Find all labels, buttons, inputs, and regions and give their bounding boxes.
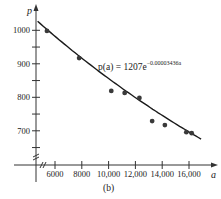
data-point [45,29,50,34]
y-tick-label: 1000 [13,25,30,35]
y-tick-label: 900 [17,59,30,69]
data-point [77,56,82,61]
data-point [109,89,114,94]
axes: 70080090010006000800010,00012,00014,0001… [13,4,218,182]
data-point [150,119,155,124]
data-point [184,130,189,135]
data-point [122,91,127,96]
y-tick-label: 700 [17,126,30,136]
x-tick-label: 12,000 [124,169,147,179]
fit-equation-exponent: −0.00003436a [147,60,182,66]
y-tick-label: 800 [17,92,30,102]
x-tick-label: 14,000 [151,169,174,179]
data-point [137,96,142,101]
data-point [162,123,167,128]
pressure-altitude-chart: 70080090010006000800010,00012,00014,0001… [0,0,221,199]
x-axis-arrow-icon [211,163,218,168]
x-tick-label: 10,000 [97,169,120,179]
fit-equation-main: p(a) = 1207e [98,62,147,73]
fit-equation: p(a) = 1207e−0.00003436a [98,60,182,73]
x-tick-label: 16,000 [177,169,200,179]
figure-caption: (b) [103,183,114,194]
data-point [189,131,194,136]
x-tick-label: 8000 [73,169,90,179]
y-axis-label: p [26,5,32,16]
fit-curve-line [38,21,202,139]
data-points [45,29,195,136]
x-tick-label: 6000 [47,169,64,179]
x-axis-label: a [211,169,216,180]
fit-curve [38,21,202,139]
y-axis-arrow-icon [34,4,39,11]
